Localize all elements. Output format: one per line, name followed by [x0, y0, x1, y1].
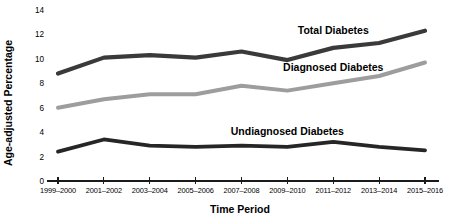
x-tick-label: 2013–2014	[361, 186, 397, 195]
x-tick-label: 2011–2012	[315, 186, 351, 195]
x-axis	[47, 177, 439, 184]
y-axis-title: Age-adjusted Percentage	[2, 40, 14, 166]
y-tick-label: 8	[39, 79, 44, 88]
y-tick-label: 14	[35, 6, 45, 15]
x-tick-label: 2001–2002	[86, 186, 122, 195]
y-tick-label: 0	[39, 177, 44, 186]
series-label-undiagnosed-diabetes: Undiagnosed Diabetes	[231, 125, 344, 137]
series-label-total-diabetes: Total Diabetes	[298, 24, 369, 36]
y-tick-label: 12	[35, 30, 45, 39]
x-tick-label: 2005–2006	[178, 186, 214, 195]
x-tick-label: 2003–2004	[132, 186, 168, 195]
y-tick-label: 10	[35, 55, 45, 64]
x-axis-title: Time Period	[210, 203, 270, 215]
chart-container: 02468101214 1999–20002001–20022003–20042…	[0, 0, 452, 220]
y-axis-tick-labels: 02468101214	[35, 6, 45, 186]
x-axis-tick-labels: 1999–20002001–20022003–20042005–20062007…	[40, 186, 443, 195]
x-tick-label: 1999–2000	[40, 186, 76, 195]
x-tick-label: 2007–2008	[223, 186, 259, 195]
y-tick-label: 4	[39, 128, 44, 137]
line-chart: 02468101214 1999–20002001–20022003–20042…	[0, 0, 452, 220]
x-tick-label: 2015–2016	[407, 186, 443, 195]
series-label-diagnosed-diabetes: Diagnosed Diabetes	[283, 61, 384, 73]
y-tick-label: 6	[39, 104, 44, 113]
x-tick-label: 2009–2010	[269, 186, 305, 195]
y-tick-label: 2	[39, 153, 44, 162]
series-line-undiagnosed-diabetes	[58, 139, 425, 151]
